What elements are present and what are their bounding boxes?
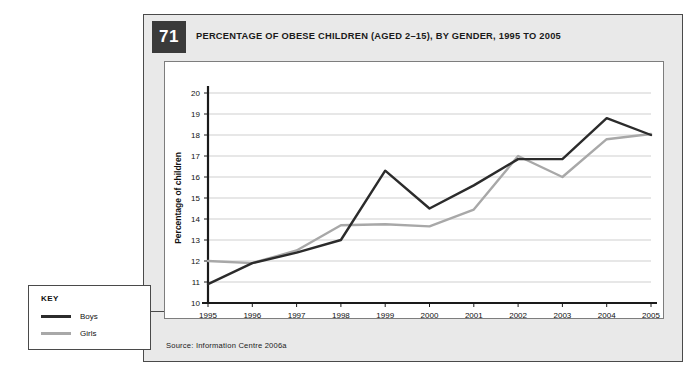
key-connector-line (150, 311, 164, 312)
x-axis-tick-label: 2000 (421, 311, 439, 318)
y-axis-tick-label: 19 (191, 110, 200, 119)
y-axis-title: Percentage of children (173, 152, 183, 244)
y-axis-tick-label: 13 (191, 236, 200, 245)
figure-panel: 71 PERCENTAGE OF OBESE CHILDREN (AGED 2–… (143, 14, 683, 362)
x-axis-tick-label: 2001 (465, 311, 483, 318)
y-axis-tick-label: 16 (191, 173, 200, 182)
figure-header: 71 PERCENTAGE OF OBESE CHILDREN (AGED 2–… (144, 15, 682, 59)
key-swatch-boys-icon (41, 315, 71, 318)
key-swatch-girls-icon (41, 332, 71, 335)
y-axis-tick-label: 14 (191, 215, 200, 224)
key-label-girls: Girls (80, 329, 96, 338)
y-axis-tick-label: 15 (191, 194, 200, 203)
series-line-boys (208, 118, 651, 284)
x-axis-tick-label: 1996 (243, 311, 261, 318)
x-axis-tick-label: 2002 (509, 311, 527, 318)
key-item-boys: Boys (41, 312, 98, 321)
series-line-girls (208, 134, 651, 263)
x-axis-tick-label: 2005 (642, 311, 660, 318)
line-chart: 1011121314151617181920 19951996199719981… (165, 62, 663, 318)
x-axis-ticks-group: 1995199619971998199920002001200220032004… (199, 303, 660, 318)
figure-number-badge: 71 (152, 21, 186, 53)
key-heading: KEY (41, 294, 59, 303)
y-axis-tick-label: 17 (191, 152, 200, 161)
source-note: Source: Information Centre 2006a (166, 341, 287, 350)
figure-title: PERCENTAGE OF OBESE CHILDREN (AGED 2–15)… (196, 29, 674, 43)
x-axis-tick-label: 1999 (376, 311, 394, 318)
x-axis-tick-label: 1997 (288, 311, 306, 318)
gridlines-group (208, 93, 651, 282)
x-axis-tick-label: 2003 (554, 311, 572, 318)
key-item-girls: Girls (41, 329, 96, 338)
y-axis-tick-label: 20 (191, 89, 200, 98)
y-axis-tick-label: 18 (191, 131, 200, 140)
key-label-boys: Boys (80, 312, 98, 321)
x-axis-tick-label: 1998 (332, 311, 350, 318)
y-axis-ticks-group: 1011121314151617181920 (191, 89, 208, 308)
y-axis-tick-label: 12 (191, 257, 200, 266)
data-series-group (208, 118, 651, 284)
x-axis-tick-label: 1995 (199, 311, 217, 318)
y-axis-tick-label: 11 (192, 278, 201, 287)
chart-card: 1011121314151617181920 19951996199719981… (164, 61, 664, 319)
key-box: KEY Boys Girls (28, 285, 151, 350)
x-axis-tick-label: 2004 (598, 311, 616, 318)
y-axis-tick-label: 10 (191, 299, 200, 308)
